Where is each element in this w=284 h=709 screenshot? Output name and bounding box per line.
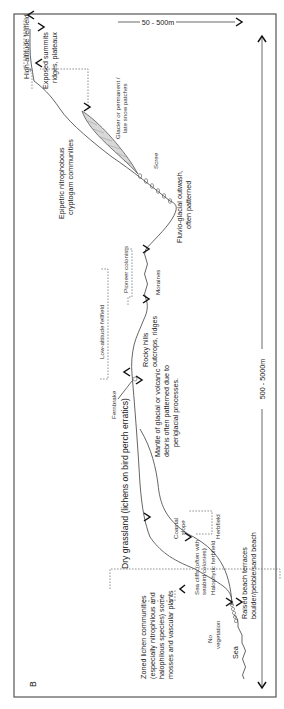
arrowhead-down-icon: [236, 18, 242, 26]
label-mantle-3: periglacial processes.: [171, 378, 180, 447]
label-coastal-slope-2: slope: [179, 520, 186, 535]
chevron-icon: [38, 23, 44, 31]
fernbrake-pointer: [118, 381, 132, 399]
label-glacier-1: Glacier or permanent /: [114, 77, 121, 139]
label-rocky-hills-2: outcrops, ridges: [150, 315, 159, 367]
label-low-fellfield: Low-altitude fellfield: [98, 304, 105, 359]
zone-markers: [28, 11, 242, 606]
diagram-stage: B 500 - 5000m 50 - 500m: [0, 0, 284, 709]
terrain-profile: [30, 29, 232, 605]
scale-arrow-top: 50 - 500m: [118, 18, 242, 27]
label-pioneer: Pioneer colonists: [122, 246, 129, 293]
label-coastal-slope-1: Coastal: [172, 518, 179, 539]
label-moraines: Moraines: [154, 270, 161, 295]
label-no-vegetation-2: vegetation: [214, 620, 221, 649]
label-epipetric-2: cryptogam communities: [66, 139, 75, 215]
label-zoned-lichen-4: mosses and vascular plants: [166, 590, 175, 679]
label-sea-cliffs-2: seabird colonies): [200, 548, 207, 595]
label-zoned-lichen-2: (especially nitrophilous and: [148, 592, 157, 679]
label-fluvio-2: often patterned: [184, 181, 193, 229]
scale-top-label: 50 - 500m: [142, 18, 174, 27]
label-rocky-hills-1: Rocky hills: [141, 332, 150, 367]
label-fernbrake: Fernbrake: [110, 390, 117, 419]
label-raised-beach-2: boulder/pebble/sand beach: [249, 532, 258, 619]
label-zoned-lichen-1: Zoned lichen communities: [139, 595, 148, 679]
label-scree: Scree: [152, 152, 159, 169]
scree-rubble: [138, 174, 171, 204]
label-glacier-2: late snow patches: [121, 83, 128, 133]
chevron-icon: [84, 103, 90, 111]
vegetation-zonation-diagram: B 500 - 5000m 50 - 500m: [0, 0, 284, 709]
glacier-shape: [82, 111, 138, 174]
scale-arrow-main: 500 - 5000m: [258, 36, 267, 688]
chevron-icon: [180, 585, 185, 593]
label-zoned-lichen-3: halophilous species) some: [157, 594, 166, 679]
label-exposed-summits-2: ridges, plateaux: [50, 32, 59, 83]
label-high-fellfield: High-altitude fellfield: [22, 14, 31, 79]
label-dry-grassland: Dry grassland (lichens on bird perch err…: [120, 398, 130, 569]
panel-label: B: [28, 681, 38, 687]
label-exposed-summits-1: Exposed summits: [41, 32, 50, 89]
bracket-herbfield: [188, 511, 212, 534]
label-raised-beach-1: Raised beach terraces: [240, 547, 249, 619]
label-epipetric-1: Epipetric nitrophobous: [57, 147, 66, 219]
chevron-icon: [124, 368, 130, 376]
label-mantle-2: debris often patterned due to: [162, 365, 171, 457]
label-mantle-1: Mantle of glacial or volcanic: [153, 368, 162, 457]
label-sea-cliffs-1: Sea cliffs (often with: [193, 539, 200, 595]
scale-main-label: 500 - 5000m: [258, 359, 267, 399]
label-fluvio-1: Fluvio-glacial outwash,: [175, 170, 184, 243]
label-herbfield: Herbfield: [214, 514, 221, 539]
chevron-icon: [144, 513, 150, 521]
label-sea: Sea: [231, 646, 240, 659]
label-halophytic: Halophytic herbfield: [209, 540, 216, 595]
label-no-vegetation-1: No: [206, 635, 213, 643]
erratic-boulder: [133, 377, 137, 381]
